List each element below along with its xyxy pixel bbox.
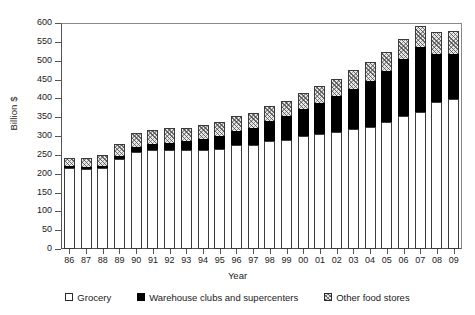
bar-segment-grocery: [164, 150, 175, 249]
bar-segment-grocery: [298, 136, 309, 249]
bar-90: [131, 133, 142, 249]
bar-segment-warehouse: [231, 131, 242, 146]
y-axis-tick-label: 350: [22, 111, 52, 121]
x-axis-tick-mark: [404, 249, 405, 254]
bar-segment-other: [131, 133, 142, 147]
hatched-square-icon: [324, 293, 332, 301]
bar-segment-warehouse: [448, 54, 459, 99]
filled-square-icon: [137, 293, 145, 301]
legend-label-warehouse: Warehouse clubs and supercenters: [149, 292, 298, 303]
bar-segment-warehouse: [331, 96, 342, 132]
bar-group: [61, 23, 462, 249]
x-axis-tick-mark: [420, 249, 421, 254]
bar-segment-other: [431, 32, 442, 54]
bar-segment-warehouse: [415, 47, 426, 112]
bar-segment-other: [448, 31, 459, 54]
x-axis-tick-mark: [86, 249, 87, 254]
bar-segment-grocery: [331, 132, 342, 249]
x-axis-tick-mark: [220, 249, 221, 254]
x-axis-tick-mark: [270, 249, 271, 254]
bar-09: [448, 31, 459, 249]
bar-02: [331, 79, 342, 249]
bar-segment-other: [365, 62, 376, 81]
bar-segment-warehouse: [365, 81, 376, 127]
bar-segment-grocery: [365, 127, 376, 249]
legend-label-other: Other food stores: [336, 292, 409, 303]
bar-segment-grocery: [64, 168, 75, 249]
y-axis-tick-label: 100: [22, 205, 52, 215]
x-axis-tick-mark: [119, 249, 120, 254]
bar-segment-other: [264, 106, 275, 121]
bar-segment-grocery: [431, 102, 442, 249]
bar-segment-warehouse: [381, 71, 392, 122]
bar-01: [314, 86, 325, 249]
bar-segment-warehouse: [214, 136, 225, 149]
bar-segment-other: [198, 125, 209, 139]
x-axis-tick-mark: [320, 249, 321, 254]
x-axis-tick-mark: [69, 249, 70, 254]
x-axis-tick-mark: [153, 249, 154, 254]
bar-segment-other: [298, 93, 309, 109]
bar-05: [381, 52, 392, 249]
legend-label-grocery: Grocery: [77, 292, 111, 303]
bar-segment-grocery: [415, 112, 426, 249]
x-axis-tick-mark: [170, 249, 171, 254]
x-axis-tick-mark: [303, 249, 304, 254]
bar-segment-other: [415, 26, 426, 47]
x-axis-tick-mark: [103, 249, 104, 254]
bar-segment-warehouse: [164, 143, 175, 151]
bar-07: [415, 26, 426, 249]
bar-segment-grocery: [131, 152, 142, 249]
x-axis-tick-mark: [337, 249, 338, 254]
bar-segment-warehouse: [298, 109, 309, 136]
x-axis-title: Year: [0, 270, 475, 281]
y-axis-tick-label: 400: [22, 92, 52, 102]
bar-segment-grocery: [181, 150, 192, 249]
bar-segment-grocery: [398, 116, 409, 249]
bar-segment-grocery: [381, 122, 392, 249]
stacked-bar-chart: Billion $ 050100150200250300350400450500…: [0, 0, 475, 315]
bar-04: [365, 62, 376, 249]
bar-segment-warehouse: [181, 141, 192, 150]
bar-segment-grocery: [264, 141, 275, 249]
y-axis-tick-label: 200: [22, 168, 52, 178]
x-axis-tick-mark: [454, 249, 455, 254]
y-axis-tick-label: 150: [22, 187, 52, 197]
y-axis-tick-label: 250: [22, 149, 52, 159]
bar-00: [298, 93, 309, 249]
y-axis-tick-label: 300: [22, 130, 52, 140]
legend-item-warehouse: Warehouse clubs and supercenters: [137, 292, 298, 303]
x-axis-tick-mark: [387, 249, 388, 254]
bar-98: [264, 106, 275, 249]
bar-06: [398, 39, 409, 249]
bar-segment-other: [214, 122, 225, 136]
bar-97: [248, 113, 259, 249]
x-axis-tick-mark: [136, 249, 137, 254]
y-axis-tick-label: 600: [22, 17, 52, 27]
bar-segment-other: [114, 144, 125, 156]
bar-segment-warehouse: [198, 139, 209, 150]
bar-segment-other: [164, 128, 175, 142]
bar-87: [81, 158, 92, 250]
bar-segment-other: [181, 128, 192, 142]
chart-legend: Grocery Warehouse clubs and supercenters…: [0, 289, 475, 305]
x-axis-tick-mark: [287, 249, 288, 254]
legend-item-grocery: Grocery: [65, 292, 111, 303]
bar-segment-warehouse: [431, 54, 442, 102]
y-axis-tick-label: 550: [22, 36, 52, 46]
bar-segment-grocery: [231, 145, 242, 249]
y-axis-tick-label: 500: [22, 55, 52, 65]
bar-segment-other: [147, 130, 158, 144]
y-axis-tick-label: 450: [22, 74, 52, 84]
bar-segment-other: [231, 116, 242, 130]
hollow-square-icon: [65, 293, 73, 301]
bar-segment-grocery: [81, 169, 92, 249]
y-axis-tick-label: 50: [22, 224, 52, 234]
legend-item-other: Other food stores: [324, 292, 409, 303]
bar-96: [231, 116, 242, 249]
y-axis-title: Billion $: [8, 79, 19, 149]
x-axis-tick-mark: [186, 249, 187, 254]
bar-segment-grocery: [198, 150, 209, 249]
bar-segment-other: [248, 113, 259, 128]
x-axis-tick-label: 09: [443, 255, 465, 265]
